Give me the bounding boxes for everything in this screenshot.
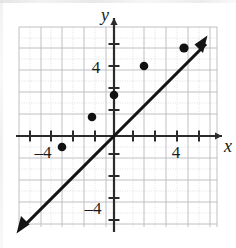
- data-point: [179, 43, 188, 52]
- data-point: [58, 143, 67, 152]
- coordinate-graph: –4 4 4 –4 y x: [0, 0, 236, 248]
- x-axis-label: x: [223, 136, 232, 156]
- y-axis-label: y: [99, 5, 109, 25]
- data-point: [140, 62, 149, 71]
- x-axis-arrowhead: [215, 132, 222, 139]
- graph-canvas: –4 4 4 –4 y x: [0, 0, 236, 248]
- y-axis-arrowhead: [110, 18, 117, 25]
- x-tick-label-neg4: –4: [34, 143, 53, 162]
- y-tick-label-neg4: –4: [84, 199, 103, 218]
- data-point: [110, 91, 119, 100]
- y-tick-label-4: 4: [92, 58, 101, 77]
- data-point: [88, 113, 97, 122]
- x-tick-label-4: 4: [172, 143, 181, 162]
